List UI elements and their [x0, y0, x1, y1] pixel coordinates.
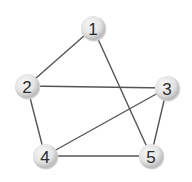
graph-node-4: 4 — [33, 144, 58, 170]
graph-node-3: 3 — [155, 76, 180, 102]
edge-1-5 — [93, 28, 151, 156]
edge-2-3 — [27, 86, 167, 88]
graph-node-5: 5 — [139, 144, 164, 170]
nodes-group: 12345 — [15, 16, 180, 170]
edges-group — [27, 28, 167, 156]
node-label: 3 — [162, 80, 171, 99]
node-label: 2 — [22, 78, 31, 97]
graph-node-1: 1 — [81, 16, 106, 42]
node-label: 5 — [146, 148, 155, 167]
node-label: 4 — [40, 148, 49, 167]
graph-diagram: 12345 — [0, 0, 192, 182]
node-label: 1 — [88, 20, 97, 39]
edge-1-2 — [27, 28, 93, 86]
